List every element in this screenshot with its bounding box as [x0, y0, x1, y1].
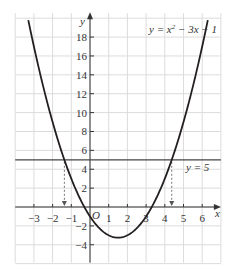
- origin-label: O: [92, 209, 100, 221]
- y-tick-label: 12: [76, 88, 87, 100]
- y-axis-label: y: [79, 15, 85, 27]
- y-axis-arrow-icon: [87, 12, 93, 19]
- y-tick-label: −2: [75, 220, 87, 232]
- x-tick-label: 6: [199, 212, 205, 224]
- arrow-down-icon: [169, 201, 174, 206]
- line-equation-label: y = 5: [185, 161, 210, 173]
- y-tick-label: −4: [75, 239, 87, 251]
- x-tick-label: 1: [106, 212, 112, 224]
- y-tick-label: 14: [76, 69, 88, 81]
- graph: −3−2−1123456−4−224681012141618 y = x2 − …: [0, 0, 234, 273]
- parabola-curve: [28, 20, 208, 238]
- y-tick-label: 18: [76, 31, 88, 43]
- y-tick-label: 2: [82, 182, 88, 194]
- x-tick-label: 5: [181, 212, 187, 224]
- y-tick-label: 4: [82, 163, 88, 175]
- x-tick-label: −3: [28, 212, 40, 224]
- y-tick-label: 10: [76, 107, 88, 119]
- x-axis-label: x: [214, 207, 220, 219]
- x-tick-label: 4: [162, 212, 168, 224]
- curve-equation-label: y = x2 − 3x − 1: [148, 23, 217, 35]
- x-tick-label: 2: [125, 212, 131, 224]
- y-tick-label: 8: [82, 125, 88, 137]
- x-tick-label: −2: [47, 212, 59, 224]
- axes: [15, 12, 221, 262]
- y-tick-label: 6: [82, 144, 88, 156]
- grid-lines: [15, 13, 221, 263]
- series: [15, 20, 221, 238]
- y-tick-label: 16: [76, 50, 88, 62]
- arrow-down-icon: [62, 201, 67, 206]
